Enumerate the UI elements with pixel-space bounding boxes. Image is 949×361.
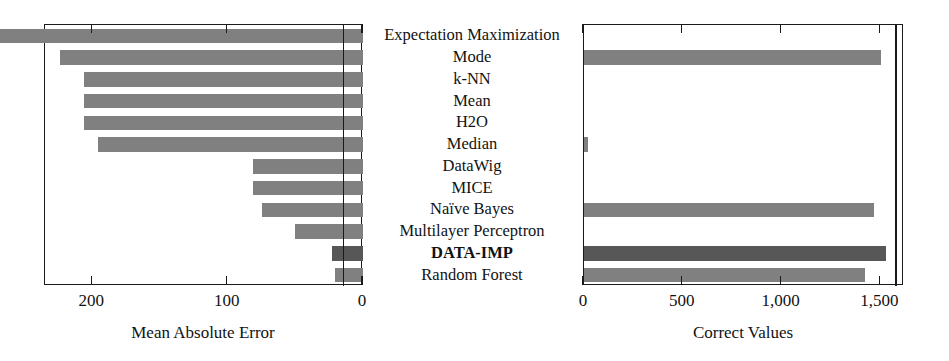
bar-row bbox=[45, 72, 361, 86]
plot-area-right bbox=[583, 24, 903, 285]
bar-row bbox=[45, 50, 361, 64]
category-label-column: Expectation MaximizationModek-NNMeanH2OM… bbox=[366, 24, 578, 286]
category-label: MICE bbox=[366, 179, 578, 196]
x-tick-mark bbox=[879, 24, 880, 33]
x-tick-label: 0 bbox=[317, 291, 407, 310]
category-label: DataWig bbox=[366, 157, 578, 174]
bar-highlight bbox=[584, 246, 886, 260]
bar bbox=[253, 181, 363, 195]
zero-reference-line-left bbox=[343, 25, 345, 286]
bar bbox=[84, 72, 363, 86]
plot-area-left bbox=[44, 24, 362, 285]
total-reference-line-right bbox=[895, 25, 897, 286]
bar bbox=[98, 137, 363, 151]
x-tick-label: 500 bbox=[637, 291, 727, 310]
category-label: Random Forest bbox=[366, 266, 578, 283]
bar-row bbox=[45, 29, 361, 43]
category-label: Mode bbox=[366, 48, 578, 65]
x-axis-title-left: Mean Absolute Error bbox=[73, 323, 333, 343]
bar-series-right bbox=[584, 25, 902, 284]
bar-row bbox=[584, 50, 902, 64]
x-axis-title-right: Correct Values bbox=[613, 323, 873, 343]
x-tick-mark bbox=[582, 24, 583, 33]
x-tick-label: 0 bbox=[538, 291, 628, 310]
x-tick-mark bbox=[681, 276, 682, 285]
x-tick-mark bbox=[361, 276, 362, 285]
category-label: Median bbox=[366, 135, 578, 152]
category-label: H2O bbox=[366, 113, 578, 130]
x-tick-mark bbox=[91, 24, 92, 33]
bar bbox=[584, 268, 865, 282]
bar-row bbox=[45, 159, 361, 173]
bar-row bbox=[584, 203, 902, 217]
x-tick-mark bbox=[361, 24, 362, 33]
bar-row bbox=[45, 203, 361, 217]
bar-row bbox=[45, 116, 361, 130]
x-tick-mark bbox=[226, 276, 227, 285]
x-tick-mark bbox=[780, 24, 781, 33]
x-tick-label: 1,500 bbox=[834, 291, 924, 310]
bar bbox=[584, 203, 874, 217]
x-tick-mark bbox=[582, 276, 583, 285]
bar bbox=[584, 50, 881, 64]
bar bbox=[584, 137, 588, 151]
bar bbox=[335, 268, 363, 282]
x-tick-label: 200 bbox=[46, 291, 136, 310]
bar bbox=[84, 94, 363, 108]
bar-row bbox=[45, 224, 361, 238]
x-tick-mark bbox=[91, 276, 92, 285]
bar bbox=[262, 203, 363, 217]
bar-row bbox=[45, 137, 361, 151]
x-tick-mark bbox=[780, 276, 781, 285]
bar bbox=[60, 50, 363, 64]
x-tick-label: 100 bbox=[182, 291, 272, 310]
category-label: DATA-IMP bbox=[366, 244, 578, 261]
x-tick-mark bbox=[226, 24, 227, 33]
bar bbox=[253, 159, 363, 173]
bar-row bbox=[45, 181, 361, 195]
bar-row bbox=[45, 246, 361, 260]
x-tick-mark bbox=[681, 24, 682, 33]
figure-root: 2001000 Mean Absolute Error Expectation … bbox=[0, 0, 949, 361]
x-tick-label: 1,000 bbox=[736, 291, 826, 310]
bar-row bbox=[45, 268, 361, 282]
category-label: Expectation Maximization bbox=[366, 26, 578, 43]
bar bbox=[0, 29, 363, 43]
category-label: k-NN bbox=[366, 70, 578, 87]
bar bbox=[295, 224, 363, 238]
category-label: Mean bbox=[366, 92, 578, 109]
category-label: Naïve Bayes bbox=[366, 200, 578, 217]
x-tick-mark bbox=[879, 276, 880, 285]
category-label: Multilayer Perceptron bbox=[366, 222, 578, 239]
bar bbox=[84, 116, 363, 130]
bar-row bbox=[584, 246, 902, 260]
bar-row bbox=[584, 137, 902, 151]
bar-series-left bbox=[45, 25, 361, 284]
bar-highlight bbox=[332, 246, 363, 260]
bar-row bbox=[45, 94, 361, 108]
bar-row bbox=[584, 268, 902, 282]
